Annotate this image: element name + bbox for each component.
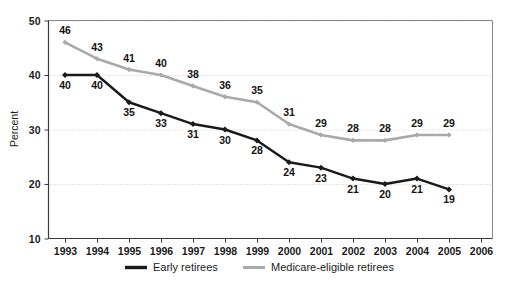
x-tick-label-2000: 2000 [278,245,302,257]
data-point-label: 23 [315,172,327,184]
chart-background [0,0,510,285]
x-tick-label-1996: 1996 [150,245,174,257]
x-tick-label-1994: 1994 [86,245,110,257]
retiree-health-coverage-line-chart: 1020304050 19931994199519961997199819992… [0,0,510,285]
data-point-label: 46 [59,24,71,36]
data-point-label: 43 [91,41,103,53]
y-tick-label-10: 10 [29,233,41,245]
x-tick-label-1993: 1993 [54,245,78,257]
data-point-label: 21 [411,183,423,195]
x-tick-label-2003: 2003 [374,245,398,257]
data-point-label: 40 [59,79,71,91]
legend-label-early-retirees: Early retirees [153,261,218,273]
data-point-label: 28 [379,122,391,134]
y-tick-label-40: 40 [29,69,41,81]
chart-canvas: 1020304050 19931994199519961997199819992… [0,0,510,285]
data-point-label: 20 [379,188,391,200]
data-point-label: 28 [251,144,263,156]
y-tick-label-20: 20 [29,178,41,190]
data-point-label: 28 [347,122,359,134]
data-point-label: 29 [411,117,423,129]
data-point-label: 41 [123,52,135,64]
x-tick-label-1997: 1997 [182,245,206,257]
data-point-label: 29 [315,117,327,129]
data-point-label: 24 [283,166,295,178]
data-point-label: 21 [347,183,359,195]
y-tick-label-50: 50 [29,15,41,27]
data-point-label: 36 [219,79,231,91]
data-point-label: 33 [155,117,167,129]
x-tick-label-1999: 1999 [246,245,270,257]
data-point-label: 35 [123,106,135,118]
data-point-label: 31 [187,128,199,140]
x-tick-label-2005: 2005 [438,245,462,257]
data-point-label: 30 [219,134,231,146]
y-axis-title: Percent [8,111,20,147]
y-tick-label-30: 30 [29,124,41,136]
x-tick-label-1998: 1998 [214,245,238,257]
data-point-label: 40 [155,57,167,69]
data-point-label: 19 [443,193,455,205]
data-point-label: 31 [283,106,295,118]
data-point-label: 35 [251,84,263,96]
x-tick-label-2006: 2006 [470,245,494,257]
x-tick-label-2001: 2001 [310,245,334,257]
data-point-label: 29 [443,117,455,129]
x-tick-label-2002: 2002 [342,245,366,257]
x-tick-label-2004: 2004 [406,245,430,257]
data-point-label: 38 [187,68,199,80]
data-point-label: 40 [91,79,103,91]
legend-label-medicare-eligible-retirees: Medicare-eligible retirees [271,261,394,273]
x-tick-label-1995: 1995 [118,245,142,257]
